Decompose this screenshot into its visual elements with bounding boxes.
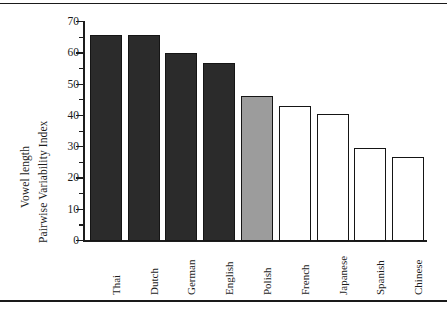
plot-area: 010203040506070: [83, 21, 427, 241]
y-tick-label: 20: [68, 171, 80, 183]
y-tick-label: 60: [68, 46, 80, 58]
y-tick-label: 30: [68, 140, 80, 152]
y-tick-minor-65: [79, 37, 83, 38]
bar-polish: [241, 96, 273, 241]
y-tick-label: 10: [68, 203, 80, 215]
y-axis-line: [83, 21, 85, 241]
y-tick-label: 50: [68, 78, 80, 90]
bar-french: [279, 106, 311, 241]
y-tick-minor-45: [79, 99, 83, 100]
y-tick-minor-15: [79, 193, 83, 194]
top-rule-divider: [0, 3, 447, 4]
x-tick-label-dutch: Dutch: [148, 268, 160, 295]
y-axis-label-line1: Vowel length: [19, 146, 31, 208]
x-tick-label-german: German: [185, 260, 197, 295]
x-tick-label-polish: Polish: [261, 267, 273, 295]
bottom-rule-divider: [0, 300, 447, 302]
bar-german: [165, 53, 197, 241]
bar-spanish: [354, 148, 386, 241]
y-tick-minor-5: [79, 224, 83, 225]
x-tick-label-english: English: [223, 261, 235, 295]
bar-series: [87, 21, 427, 241]
x-tick-label-french: French: [299, 264, 311, 295]
bar-english: [203, 63, 235, 241]
y-axis-label-line2: Pairwise Variability Index: [37, 121, 49, 243]
y-tick-minor-25: [79, 162, 83, 163]
x-tick-label-spanish: Spanish: [374, 260, 386, 295]
y-tick-label: 0: [73, 234, 79, 246]
y-tick-minor-35: [79, 131, 83, 132]
x-tick-label-japanese: Japanese: [337, 256, 349, 295]
x-tick-label-thai: Thai: [110, 275, 122, 295]
y-tick-minor-55: [79, 68, 83, 69]
bar-chinese: [392, 157, 424, 241]
y-tick-label: 40: [68, 109, 80, 121]
bar-japanese: [317, 114, 349, 241]
x-tick-label-chinese: Chinese: [412, 260, 424, 295]
y-tick-label: 70: [68, 15, 80, 27]
figure-panel: Vowel length Pairwise Variability Index …: [0, 0, 447, 314]
bar-dutch: [128, 35, 160, 241]
bar-thai: [90, 35, 122, 241]
